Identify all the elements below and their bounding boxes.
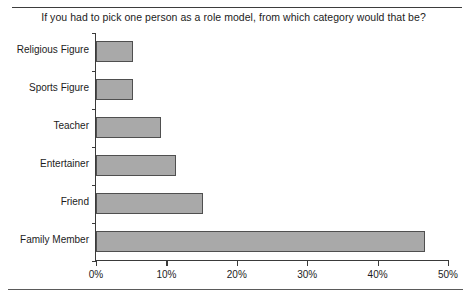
category-label: Teacher — [53, 119, 89, 133]
x-axis-tick-label: 40% — [368, 269, 388, 280]
bar — [96, 231, 425, 252]
bar-chart-figure: If you had to pick one person as a role … — [0, 0, 467, 300]
page-rule-bottom — [8, 289, 463, 290]
x-axis-tick-label: 0% — [89, 269, 103, 280]
y-axis-tick — [92, 185, 96, 186]
x-axis-tick — [96, 260, 97, 266]
plot-area: Religious FigureSports FigureTeacherEnte… — [96, 33, 448, 260]
bar — [96, 79, 133, 100]
category-label: Religious Figure — [17, 43, 89, 57]
x-axis-tick-label: 30% — [297, 269, 317, 280]
category-label: Entertainer — [40, 157, 89, 171]
category-label: Sports Figure — [29, 81, 89, 95]
bar — [96, 117, 161, 138]
category-label: Family Member — [20, 233, 89, 247]
x-axis-tick-label: 20% — [227, 269, 247, 280]
x-axis-tick-label: 50% — [438, 269, 458, 280]
page-rule-top — [12, 7, 462, 8]
x-axis-tick-label: 10% — [156, 269, 176, 280]
bar — [96, 41, 133, 62]
y-axis-tick — [92, 223, 96, 224]
category-label: Friend — [61, 195, 89, 209]
x-axis-tick — [237, 260, 238, 266]
x-axis-tick — [307, 260, 308, 266]
x-axis-tick — [378, 260, 379, 266]
y-axis-tick — [92, 33, 96, 34]
bar — [96, 193, 203, 214]
x-axis-tick — [166, 260, 167, 266]
y-axis-tick — [92, 109, 96, 110]
y-axis-tick — [92, 71, 96, 72]
y-axis-tick — [92, 147, 96, 148]
bar — [96, 155, 176, 176]
x-axis-tick — [448, 260, 449, 266]
chart-title: If you had to pick one person as a role … — [0, 11, 467, 23]
x-axis-line — [95, 260, 448, 261]
